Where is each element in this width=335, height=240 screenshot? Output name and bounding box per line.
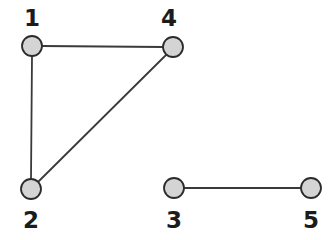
graph-edge-1-4 (42, 46, 163, 47)
edges-group (31, 46, 301, 188)
graph-edge-1-2 (31, 56, 32, 179)
graph-canvas: 12345 (0, 0, 335, 240)
graph-node-1[interactable] (22, 36, 42, 56)
graph-node-5[interactable] (301, 178, 321, 198)
graph-diagram: 12345 (0, 0, 335, 240)
graph-node-label-3: 3 (166, 207, 182, 233)
graph-node-label-2: 2 (23, 207, 39, 233)
graph-node-label-1: 1 (24, 5, 40, 31)
graph-node-4[interactable] (163, 37, 183, 57)
nodes-group (21, 36, 321, 199)
graph-node-label-5: 5 (303, 207, 319, 233)
graph-node-3[interactable] (164, 178, 184, 198)
graph-node-label-4: 4 (161, 5, 177, 31)
graph-edge-2-4 (38, 55, 166, 182)
graph-node-2[interactable] (21, 179, 41, 199)
